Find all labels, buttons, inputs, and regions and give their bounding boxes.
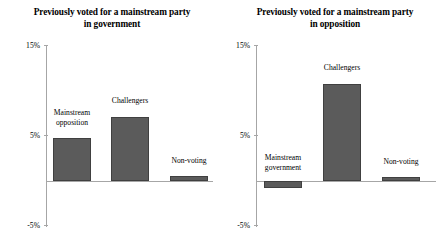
bar-label-line-1: Challengers [102, 96, 158, 106]
y-tick-label-5: 5% [223, 131, 250, 140]
plot-area-government: 15% 5% -5% Mainstream opposition Challen… [0, 0, 222, 235]
y-tick-mark-5 [254, 135, 258, 136]
y-tick-mark-neg5 [44, 225, 48, 226]
bar-non-voting [382, 177, 420, 181]
y-tick-mark-15 [44, 45, 48, 46]
bar-label-line-1: Mainstream [44, 108, 100, 118]
y-tick-label-5: 5% [6, 131, 40, 140]
figure-container: Previously voted for a mainstream party … [0, 0, 445, 235]
bar-mainstream-opposition [53, 138, 91, 181]
bar-label-line-1: Non-voting [161, 156, 217, 166]
bar-label-challengers: Challengers [314, 63, 370, 73]
y-tick-mark-15 [254, 45, 258, 46]
y-axis-line [46, 45, 47, 227]
plot-area-opposition: 15% 5% -5% Mainstream government Challen… [223, 0, 445, 235]
bar-label-line-1: Non-voting [373, 157, 429, 167]
y-tick-mark-neg5 [254, 225, 258, 226]
bar-label-non-voting: Non-voting [161, 156, 217, 166]
bar-label-line-2: government [255, 163, 311, 173]
bar-non-voting [170, 176, 208, 181]
y-tick-label-15: 15% [223, 41, 250, 50]
y-axis-line [256, 45, 257, 227]
bar-challengers [111, 117, 149, 181]
bar-challengers [323, 84, 361, 181]
bar-label-challengers: Challengers [102, 96, 158, 106]
bar-label-line-1: Challengers [314, 63, 370, 73]
bar-label-line-1: Mainstream [255, 153, 311, 163]
bar-label-line-2: opposition [44, 118, 100, 128]
y-tick-label-neg5: -5% [6, 221, 40, 230]
bar-label-non-voting: Non-voting [373, 157, 429, 167]
zero-baseline [46, 181, 213, 182]
chart-panel-government: Previously voted for a mainstream party … [0, 0, 222, 235]
y-tick-mark-5 [44, 135, 48, 136]
bar-mainstream-government [264, 181, 302, 188]
y-tick-label-15: 15% [6, 41, 40, 50]
y-tick-label-neg5: -5% [223, 221, 250, 230]
bar-label-mainstream-government: Mainstream government [255, 153, 311, 172]
chart-panel-opposition: Previously voted for a mainstream party … [223, 0, 445, 235]
bar-label-mainstream-opposition: Mainstream opposition [44, 108, 100, 127]
